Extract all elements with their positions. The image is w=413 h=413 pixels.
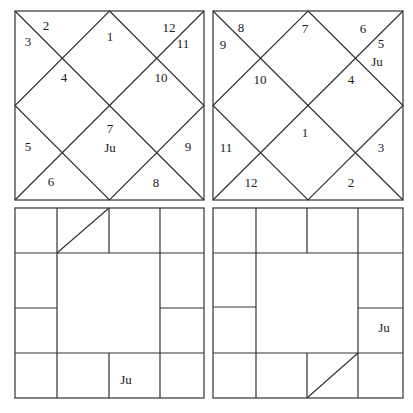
house-number: 2 bbox=[348, 176, 355, 189]
house-number: 11 bbox=[177, 37, 190, 50]
house-number: 7 bbox=[107, 122, 114, 135]
house-number: 9 bbox=[185, 140, 192, 153]
north-indian-chart-right: 789101112123456Ju bbox=[213, 11, 403, 200]
house-number: 6 bbox=[360, 22, 367, 35]
house-number: 10 bbox=[155, 71, 168, 84]
house-number: 9 bbox=[220, 38, 227, 51]
house-number: 7 bbox=[302, 22, 309, 35]
house-number: 4 bbox=[348, 73, 355, 86]
house-number: 5 bbox=[25, 140, 32, 153]
house-number: 10 bbox=[254, 73, 267, 86]
house-number: 8 bbox=[238, 21, 245, 34]
house-number: 12 bbox=[245, 176, 258, 189]
planet-label: Ju bbox=[378, 321, 390, 334]
planet-label: Ju bbox=[104, 141, 116, 154]
ascendant-marker bbox=[57, 208, 109, 253]
house-number: 1 bbox=[107, 30, 114, 43]
house-number: 3 bbox=[25, 35, 32, 48]
planet-label: Ju bbox=[120, 373, 132, 386]
chart-grid-lines bbox=[15, 208, 204, 398]
north-indian-chart-left: 123456789101112Ju bbox=[15, 11, 204, 200]
house-number: 8 bbox=[153, 176, 160, 189]
south-indian-chart-right: Ju bbox=[213, 208, 403, 398]
house-number: 12 bbox=[163, 21, 176, 34]
house-number: 4 bbox=[61, 71, 68, 84]
house-number: 6 bbox=[48, 175, 55, 188]
chart-grid-lines bbox=[213, 11, 403, 200]
planet-label: Ju bbox=[371, 55, 383, 68]
house-number: 5 bbox=[378, 37, 385, 50]
chart-grid-lines bbox=[213, 208, 403, 398]
house-number: 2 bbox=[43, 19, 50, 32]
house-number: 11 bbox=[220, 141, 233, 154]
south-indian-chart-left: Ju bbox=[15, 208, 204, 398]
ascendant-marker bbox=[307, 353, 358, 398]
house-number: 1 bbox=[302, 126, 309, 139]
house-number: 3 bbox=[378, 141, 385, 154]
